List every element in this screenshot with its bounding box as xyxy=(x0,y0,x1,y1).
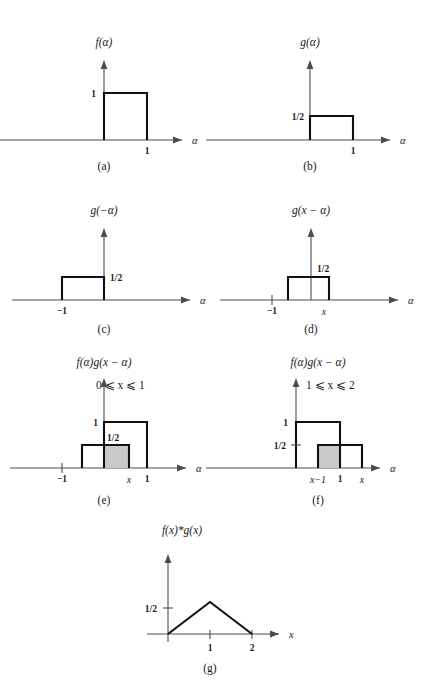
panel-c-caption: (c) xyxy=(98,323,111,336)
panel-f-xlabel-x: x xyxy=(359,474,365,485)
panel-f-x-arrow xyxy=(371,465,380,472)
panel-d-xlabel-neg1: −1 xyxy=(267,306,277,316)
panel-g: f(x)*g(x) 1/2 1 2 x (g) xyxy=(107,520,321,680)
panel-d-x-arrow xyxy=(389,297,398,304)
panel-g-caption: (g) xyxy=(203,662,217,675)
panel-f: f(α)g(x − α) 1 ⩽ x ⩽ 2 1 1/2 x−1 1 x α (… xyxy=(214,352,428,512)
panel-a-caption: (a) xyxy=(98,160,111,173)
panel-f-caption: (f) xyxy=(312,494,324,507)
panel-g-y-arrow xyxy=(165,554,172,563)
panel-f-ylabel-1: 1 xyxy=(283,418,288,428)
panel-a-xlabel-1: 1 xyxy=(145,146,150,156)
panel-c-y-arrow xyxy=(101,228,108,237)
panel-c-ylabel-half: 1/2 xyxy=(110,273,122,283)
panel-b-pulse xyxy=(310,116,353,140)
panel-e: f(α)g(x − α) 0 ⩽ x ⩽ 1 1 1/2 −1 x 1 α (e… xyxy=(0,352,214,512)
panel-d-pulse xyxy=(288,277,329,300)
panel-g-triangle xyxy=(168,602,252,634)
panel-b-y-arrow xyxy=(307,60,314,69)
panel-a-ylabel-1: 1 xyxy=(91,89,96,99)
panel-e-xlabel-x: x xyxy=(126,474,132,485)
panel-g-ylabel-half: 1/2 xyxy=(145,604,157,614)
panel-b: g(α) 1/2 1 α (b) xyxy=(214,30,428,180)
panel-d-caption: (d) xyxy=(304,323,318,336)
panel-d-xlabel-x: x xyxy=(321,306,327,317)
panel-e-axis-label: α xyxy=(196,463,202,474)
panel-c-xlabel-neg1: −1 xyxy=(57,306,67,316)
panel-g-xlabel-1: 1 xyxy=(208,643,213,653)
panel-e-xlabel-1: 1 xyxy=(145,474,150,484)
panel-f-xlabel-1: 1 xyxy=(338,474,343,484)
panel-f-condition: 1 ⩽ x ⩽ 2 xyxy=(306,379,355,391)
panel-g-xlabel-2: 2 xyxy=(250,643,255,653)
panel-e-ylabel-1: 1 xyxy=(93,418,98,428)
panel-c-x-arrow xyxy=(181,297,190,304)
panel-f-xlabel-xminus1: x−1 xyxy=(309,474,326,485)
panel-g-x-arrow xyxy=(270,631,279,638)
panel-a-title: f(α) xyxy=(96,36,113,49)
panel-d: g(x − α) 1/2 −1 x α (d) xyxy=(214,200,428,350)
panel-d-title: g(x − α) xyxy=(292,204,330,217)
panel-f-y-arrow xyxy=(293,378,300,387)
panel-a-x-arrow xyxy=(173,137,182,144)
panel-c-axis-label: α xyxy=(200,295,206,306)
panel-e-x-arrow xyxy=(177,465,186,472)
panel-b-xlabel-1: 1 xyxy=(351,146,356,156)
panel-b-title: g(α) xyxy=(300,36,320,49)
panel-f-axis-label: α xyxy=(390,463,396,474)
panel-d-y-arrow xyxy=(308,228,315,237)
panel-d-axis-label: α xyxy=(408,295,414,306)
panel-a-axis-label: α xyxy=(192,135,198,146)
panel-e-caption: (e) xyxy=(98,494,111,507)
panel-e-overlap-shading xyxy=(104,445,129,468)
panel-g-title: f(x)*g(x) xyxy=(162,524,202,537)
panel-b-caption: (b) xyxy=(303,160,317,173)
panel-f-overlap-shading xyxy=(318,445,340,468)
panel-b-axis-label: α xyxy=(400,135,406,146)
panel-f-ylabel-half: 1/2 xyxy=(274,441,286,451)
panel-g-axis-label: x xyxy=(288,629,294,640)
panel-e-xlabel-neg1: −1 xyxy=(57,474,67,484)
panel-b-ylabel-half: 1/2 xyxy=(292,112,304,122)
panel-f-title: f(α)g(x − α) xyxy=(291,356,346,369)
panel-d-ylabel-half: 1/2 xyxy=(317,264,329,274)
panel-a: f(α) 1 1 α (a) xyxy=(0,30,214,180)
convolution-figure: f(α) 1 1 α (a) g(α) 1/2 1 α (b) xyxy=(0,0,428,693)
panel-e-title: f(α)g(x − α) xyxy=(77,356,132,369)
panel-a-y-arrow xyxy=(101,60,108,69)
panel-c-title: g(−α) xyxy=(90,204,117,217)
panel-c-pulse xyxy=(62,277,104,300)
panel-e-ylabel-half: 1/2 xyxy=(107,433,119,443)
panel-c: g(−α) 1/2 −1 α (c) xyxy=(0,200,214,350)
panel-a-pulse xyxy=(104,93,147,140)
panel-b-x-arrow xyxy=(381,137,390,144)
